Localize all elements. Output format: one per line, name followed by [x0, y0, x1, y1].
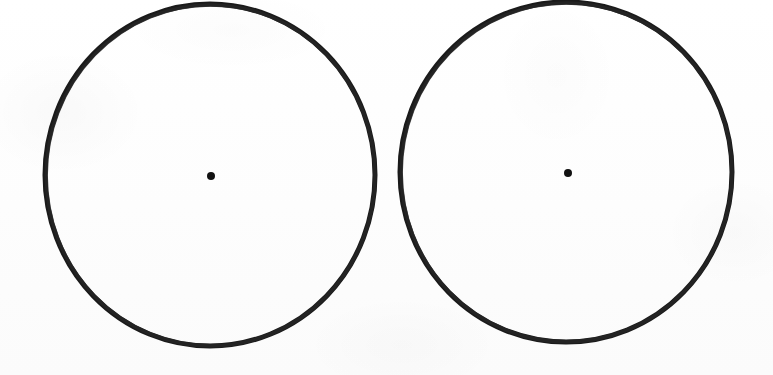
left-circle-group [45, 4, 375, 346]
right-center-dot [564, 169, 572, 177]
left-center-dot [207, 172, 215, 180]
two-circles-figure: Two hand-drawn circles with marked cente… [0, 0, 773, 375]
figure-canvas: Two hand-drawn circles with marked cente… [0, 0, 773, 375]
right-circle-group [400, 2, 732, 342]
